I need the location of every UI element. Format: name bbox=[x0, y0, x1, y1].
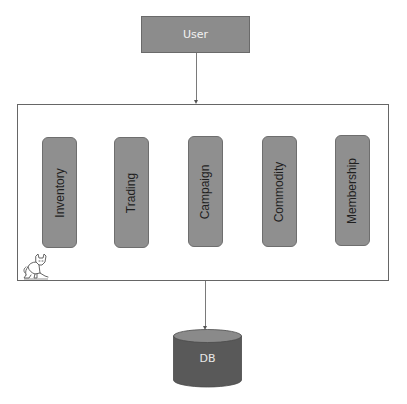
service-campaign: Campaign bbox=[188, 136, 223, 247]
service-label: Campaign bbox=[199, 164, 213, 219]
user-label: User bbox=[183, 28, 208, 41]
service-membership: Membership bbox=[335, 135, 370, 246]
service-inventory: Inventory bbox=[42, 137, 77, 248]
database-label: DB bbox=[173, 352, 242, 365]
service-label: Commodity bbox=[273, 161, 287, 222]
user-node: User bbox=[141, 16, 250, 53]
service-label: Inventory bbox=[53, 168, 67, 217]
edge-container-to-db bbox=[205, 281, 206, 327]
service-commodity: Commodity bbox=[262, 136, 297, 247]
service-label: Trading bbox=[125, 172, 139, 212]
tomcat-icon bbox=[23, 253, 49, 280]
service-label: Membership bbox=[346, 157, 360, 223]
service-trading: Trading bbox=[114, 137, 149, 248]
edge-user-to-container bbox=[196, 53, 197, 100]
